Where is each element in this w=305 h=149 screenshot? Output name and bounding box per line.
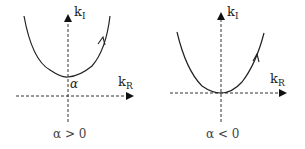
right-panel: [170, 14, 285, 122]
right-caption: α < 0: [206, 128, 239, 140]
right-x-axis-label: kR: [270, 72, 285, 85]
right-y-axis-label: kI: [227, 5, 238, 18]
right-x-axis-label-sub: R: [278, 78, 285, 88]
left-x-axis-label-sub: R: [126, 81, 133, 91]
right-x-axis-label-main: k: [270, 71, 278, 86]
left-caption: α > 0: [53, 128, 86, 140]
right-y-axis-label-main: k: [227, 4, 235, 19]
left-panel: [16, 16, 132, 122]
diagram-canvas: [0, 0, 305, 149]
left-y-axis-label-main: k: [74, 4, 82, 19]
vertex-label: α: [70, 78, 78, 90]
left-y-axis-label-sub: I: [82, 11, 86, 21]
left-y-axis-label: kI: [74, 5, 85, 18]
left-parabola: [24, 16, 110, 77]
right-y-axis-label-sub: I: [235, 11, 239, 21]
left-x-axis-label-main: k: [118, 74, 126, 89]
left-x-axis-label: kR: [118, 75, 133, 88]
